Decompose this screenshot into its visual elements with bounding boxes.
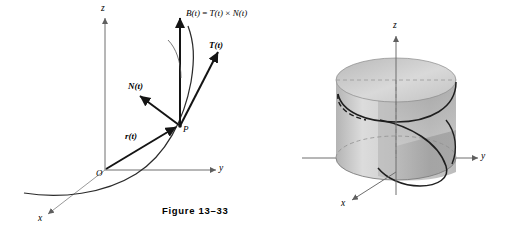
normal-vector-label: N(t) [128,81,143,91]
tangent-vector-arrow [180,52,218,126]
binormal-formula-cross: × [225,8,230,18]
figure-13-33-caption: Figure 13–33 [162,205,229,216]
figure-page: z y x O P r(t) T(t) N(t) B(t) = T(t) × N… [0,0,527,238]
point-p-label: P [183,124,189,134]
position-vector-arrow [106,127,176,169]
binormal-formula-lhs: B(t) [186,8,200,18]
z-axis-label: z [393,20,397,30]
y-axis-label: y [481,151,485,161]
origin-label: O [96,168,103,178]
figure-13-33: z y x O P r(t) T(t) N(t) B(t) = T(t) × N… [0,0,270,238]
binormal-formula-n: N(t) [233,8,248,18]
normal-vector-arrow [140,96,179,125]
binormal-formula-t: T(t) [210,8,224,18]
tangent-vector-label: T(t) [209,40,223,50]
x-axis-label: x [341,198,345,208]
y-axis-label: y [219,163,223,173]
figure-13-33-drawing [0,0,270,238]
x-axis-label: x [38,213,42,223]
binormal-formula-eq: = [202,8,207,18]
figure-13-34: z y x Figure 13–34 [270,0,527,238]
binormal-formula: B(t) = T(t) × N(t) [186,8,247,18]
point-p-marker [178,124,182,128]
figure-13-34-drawing [270,0,527,238]
position-vector-label: r(t) [125,131,137,141]
z-axis-label: z [101,3,105,13]
